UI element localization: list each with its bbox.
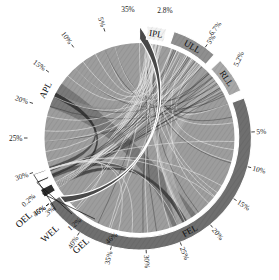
axis-tick: [46, 70, 49, 72]
axis-tick: [205, 44, 207, 47]
tick-label: 35%: [121, 5, 135, 14]
axis-tick: [248, 167, 251, 168]
arc-label-ipl: IPL: [149, 28, 164, 40]
tick-label: 15%: [31, 58, 47, 73]
axis-tick: [234, 199, 237, 201]
tick-label: 5%: [256, 127, 266, 137]
tick-label: 0.2%: [20, 192, 37, 209]
axis-tick: [72, 45, 74, 48]
axis-tick: [104, 28, 105, 31]
chord-diagram-figure: 5%10%15%20%25%30%35%5%5%10%15%20%25%30%3…: [0, 0, 279, 280]
axis-tick: [77, 232, 79, 235]
tick-label: 25%: [9, 134, 23, 143]
tick-label: 5.2%: [231, 50, 245, 68]
chord-diagram-canvas: 5%10%15%20%25%30%35%5%5%10%15%20%25%30%3…: [0, 0, 279, 280]
tick-label: 30%: [142, 255, 152, 269]
tick-label: 15%: [235, 198, 251, 213]
tick-label: 5%: [96, 16, 108, 28]
axis-tick: [210, 225, 212, 228]
tick-label: 35%: [102, 250, 114, 265]
tick-label: 6.7%: [207, 20, 224, 38]
axis-tick: [30, 102, 33, 103]
tick-label: 10%: [251, 164, 266, 176]
tick-label: 20%: [14, 93, 30, 106]
arc-segment-wel[interactable]: [36, 176, 49, 183]
axis-tick: [30, 173, 33, 174]
arc-segment-oel[interactable]: [33, 170, 46, 176]
tick-label: 10%: [59, 30, 74, 46]
group-label-wel: WEL: [38, 222, 61, 244]
tick-label: 30%: [14, 170, 30, 183]
arc-segment-gel[interactable]: [40, 184, 55, 198]
axis-tick: [180, 242, 181, 245]
tick-label: 25%: [178, 245, 191, 261]
tick-label: 2.8%: [157, 6, 172, 15]
tick-label: 20%: [210, 226, 226, 242]
axis-tick: [110, 246, 111, 249]
arc-texture: [33, 170, 46, 176]
